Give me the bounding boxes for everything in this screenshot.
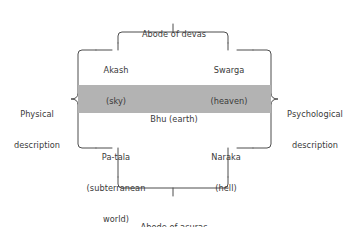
physical-description-line1: Physical	[4, 109, 70, 119]
bhu-earth-text: Bhu (earth)	[118, 114, 230, 124]
psychological-description-line1: Psychological	[281, 109, 349, 119]
swarga-line1: Swarga	[194, 65, 264, 75]
physical-description-line2: description	[4, 140, 70, 150]
naraka-line1: Naraka	[194, 152, 258, 162]
patala-line1: Pa-tala	[76, 152, 156, 162]
cosmology-diagram: Abode of devas Abode of asuras Physical …	[0, 0, 349, 227]
abode-of-devas-text: Abode of devas	[94, 29, 254, 39]
patala-line2: (subterranean	[76, 183, 156, 193]
label-psychological-description: Psychological description	[281, 88, 349, 171]
patala-line3: world)	[76, 214, 156, 224]
label-physical-description: Physical description	[4, 88, 70, 171]
naraka-line2: (hell)	[194, 183, 258, 193]
label-patala: Pa-tala (subterranean world)	[76, 131, 156, 227]
psychological-description-line2: description	[281, 140, 349, 150]
akash-line1: Akash	[84, 65, 148, 75]
label-bhu-earth: Bhu (earth)	[118, 93, 230, 145]
